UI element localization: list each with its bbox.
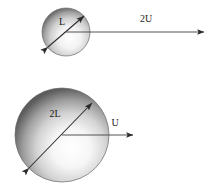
large-sphere-diameter-label: 2L	[49, 108, 60, 119]
small-sphere-diameter-label: L	[59, 16, 65, 27]
diagram-canvas: L 2U 2L U	[0, 0, 212, 188]
small-sphere-group: L 2U	[42, 8, 204, 56]
large-sphere-velocity-label: U	[111, 117, 119, 128]
small-sphere-velocity-label: 2U	[140, 13, 153, 24]
large-sphere-group: 2L U	[15, 88, 133, 182]
physics-diagram: L 2U 2L U	[0, 0, 212, 188]
